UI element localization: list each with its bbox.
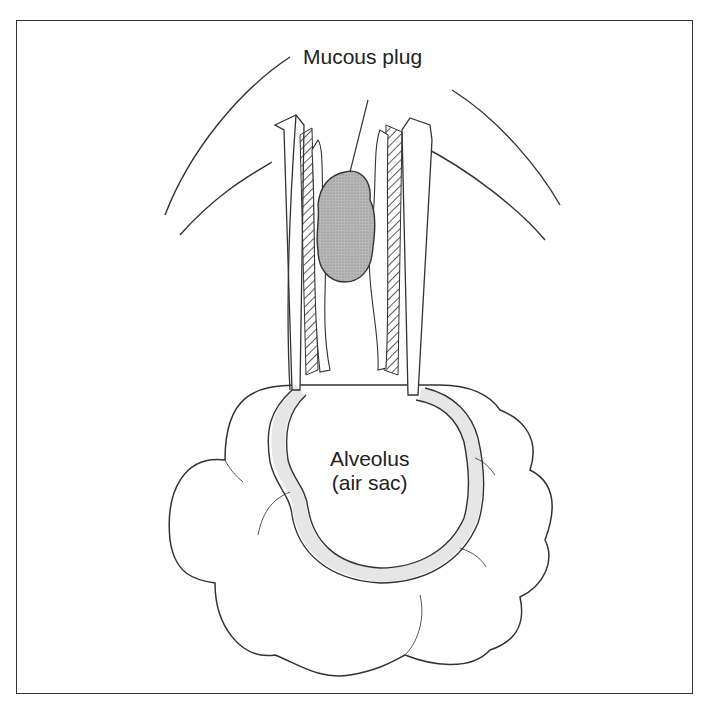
airway-wall-left — [275, 115, 304, 390]
mucous-plug — [317, 171, 375, 282]
label-alveolus-line2: (air sac) — [330, 471, 409, 495]
label-alveolus: Alveolus (air sac) — [330, 447, 409, 495]
label-alveolus-line1: Alveolus — [330, 447, 409, 471]
alveolar-cluster — [169, 385, 552, 676]
label-mucous-plug: Mucous plug — [303, 45, 422, 69]
alveolus-diagram — [0, 0, 710, 703]
airway-wall-right — [402, 118, 432, 395]
plug-leader-line — [350, 100, 368, 172]
